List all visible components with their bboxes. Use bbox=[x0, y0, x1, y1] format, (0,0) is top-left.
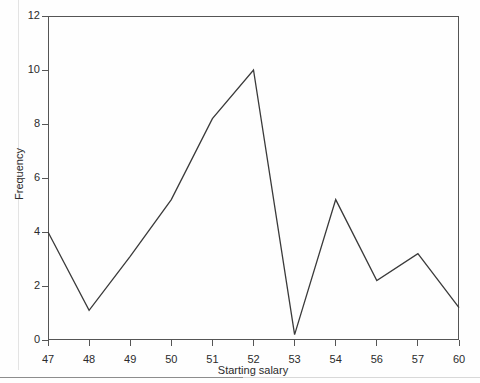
y-axis-tick bbox=[42, 286, 48, 287]
screenshot-canvas: 024681012 4748495051525354565760 Frequen… bbox=[0, 0, 480, 383]
y-axis-title-text: Frequency bbox=[13, 148, 25, 200]
frequency-polyline bbox=[48, 70, 459, 335]
y-axis-tick-label: 0 bbox=[0, 334, 40, 345]
x-axis-tick bbox=[171, 340, 172, 346]
plot-area bbox=[48, 16, 459, 340]
y-axis-tick-label: 8 bbox=[0, 118, 40, 129]
x-axis-title-text: Starting salary bbox=[192, 364, 288, 376]
y-axis-tick-label-text: 4 bbox=[4, 226, 40, 237]
y-axis-tick-label-text: 2 bbox=[4, 280, 40, 291]
x-axis-tick bbox=[376, 340, 377, 346]
y-axis-tick-label: 10 bbox=[0, 64, 40, 75]
x-axis-tick bbox=[253, 340, 254, 346]
x-axis-tick bbox=[130, 340, 131, 346]
y-axis-title: Frequency bbox=[13, 129, 25, 219]
x-axis-tick bbox=[459, 340, 460, 346]
y-axis-tick-label-text: 12 bbox=[4, 10, 40, 21]
y-axis-tick-label: 12 bbox=[0, 10, 40, 21]
x-axis-tick bbox=[89, 340, 90, 346]
y-axis-tick bbox=[42, 16, 48, 17]
y-axis-tick-label: 2 bbox=[0, 280, 40, 291]
y-axis-tick-label-text: 10 bbox=[4, 64, 40, 75]
y-axis-tick-label: 4 bbox=[0, 226, 40, 237]
y-axis-tick bbox=[42, 124, 48, 125]
y-axis-tick-label-text: 0 bbox=[4, 334, 40, 345]
y-axis-tick-label-text: 8 bbox=[4, 118, 40, 129]
x-axis-title: Starting salary bbox=[0, 364, 480, 376]
x-axis-tick bbox=[48, 340, 49, 346]
x-axis-tick bbox=[335, 340, 336, 346]
y-axis-tick bbox=[42, 178, 48, 179]
x-axis-tick bbox=[294, 340, 295, 346]
x-axis-tick bbox=[417, 340, 418, 346]
frequency-polygon-chart: 024681012 4748495051525354565760 Frequen… bbox=[0, 0, 480, 383]
y-axis-tick bbox=[42, 232, 48, 233]
data-line-svg bbox=[48, 16, 459, 340]
y-axis-tick bbox=[42, 70, 48, 71]
x-axis-tick bbox=[212, 340, 213, 346]
